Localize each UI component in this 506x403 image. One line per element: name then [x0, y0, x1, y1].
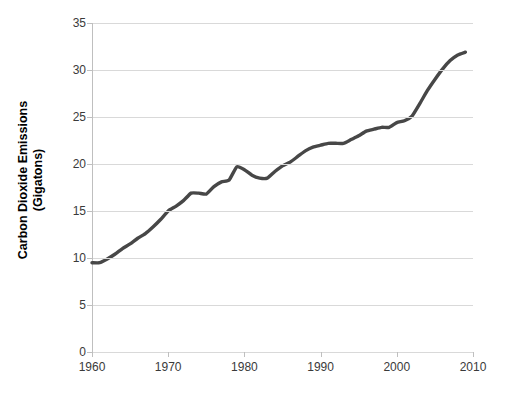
- y-tick-mark: [87, 70, 93, 71]
- y-axis-tick-labels: 05101520253035: [56, 0, 86, 403]
- y-tick-label: 15: [56, 205, 86, 217]
- y-axis-title-line1: Carbon Dioxide Emissions: [16, 101, 30, 259]
- gridline-y: [92, 70, 473, 71]
- y-tick-label: 35: [56, 17, 86, 29]
- x-tick-mark: [244, 352, 245, 357]
- y-tick-mark: [87, 211, 93, 212]
- gridline-y: [92, 305, 473, 306]
- gridline-y: [92, 352, 473, 353]
- series-path-co2: [92, 52, 465, 263]
- y-tick-mark: [87, 117, 93, 118]
- y-tick-label: 10: [56, 252, 86, 264]
- x-tick-label: 1990: [291, 360, 351, 374]
- gridline-y: [92, 117, 473, 118]
- x-tick-label: 2000: [367, 360, 427, 374]
- plot-area: [92, 23, 473, 352]
- y-tick-label: 25: [56, 111, 86, 123]
- y-tick-mark: [87, 305, 93, 306]
- y-tick-mark: [87, 164, 93, 165]
- x-tick-mark: [473, 352, 474, 357]
- x-tick-label: 1960: [62, 360, 122, 374]
- x-tick-mark: [397, 352, 398, 357]
- y-axis-title: Carbon Dioxide Emissions (Gigatons): [0, 0, 62, 360]
- y-axis-title-line2: (Gigatons): [31, 101, 46, 259]
- y-tick-label: 0: [56, 346, 86, 358]
- x-tick-mark: [321, 352, 322, 357]
- data-series-line: [92, 23, 473, 352]
- gridline-y: [92, 23, 473, 24]
- y-tick-label: 5: [56, 299, 86, 311]
- chart-figure: Carbon Dioxide Emissions (Gigatons) 0510…: [0, 0, 506, 403]
- x-tick-label: 1970: [138, 360, 198, 374]
- x-tick-mark: [168, 352, 169, 357]
- y-tick-mark: [87, 23, 93, 24]
- x-tick-label: 2010: [443, 360, 503, 374]
- gridline-y: [92, 211, 473, 212]
- gridline-y: [92, 164, 473, 165]
- y-tick-label: 30: [56, 64, 86, 76]
- gridline-y: [92, 258, 473, 259]
- y-tick-label: 20: [56, 158, 86, 170]
- x-tick-label: 1980: [214, 360, 274, 374]
- x-tick-mark: [92, 352, 93, 357]
- y-tick-mark: [87, 258, 93, 259]
